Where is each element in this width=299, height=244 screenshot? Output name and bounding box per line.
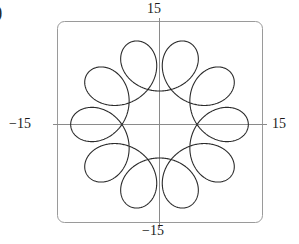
plot-canvas — [0, 0, 299, 244]
parametric-curve-figure: ) 15 −15 −15 15 — [0, 0, 299, 244]
tick-label-left: −15 — [9, 117, 31, 131]
part-label: ) — [0, 2, 2, 21]
plot-background — [0, 0, 299, 244]
tick-label-top: 15 — [147, 2, 161, 16]
tick-label-right: 15 — [272, 117, 286, 131]
tick-label-bottom: −15 — [142, 224, 164, 238]
